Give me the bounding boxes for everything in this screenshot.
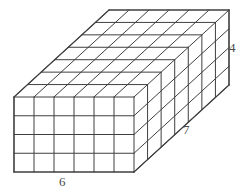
- figure-root: 6 7 4: [0, 0, 249, 196]
- dimension-label-depth: 7: [183, 123, 190, 136]
- dimension-label-height: 4: [229, 41, 236, 54]
- dimension-label-width: 6: [59, 175, 66, 188]
- prism-grid-lines: [14, 10, 229, 172]
- rectangular-prism-diagram: [0, 0, 249, 196]
